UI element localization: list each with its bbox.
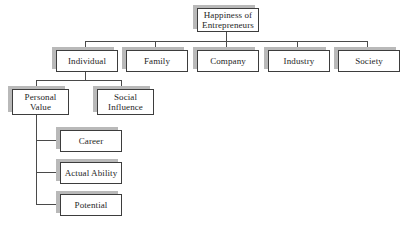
- root-node[interactable]: Happiness of Entrepreneurs: [197, 8, 259, 32]
- personal-value-node[interactable]: Personal Value: [12, 89, 69, 115]
- connector-individual-down: [85, 72, 86, 80]
- society-node-label: Society: [339, 56, 399, 66]
- career-node[interactable]: Career: [60, 130, 122, 152]
- actual-ability-node-label: Actual Ability: [61, 168, 121, 178]
- career-node-label: Career: [61, 136, 121, 146]
- company-node[interactable]: Company: [197, 50, 259, 72]
- industry-node-label: Industry: [269, 56, 329, 66]
- individual-node-label: Individual: [57, 56, 117, 66]
- social-influence-node-label: Social Influence: [98, 92, 153, 112]
- potential-node-label: Potential: [61, 200, 121, 210]
- actual-ability-node[interactable]: Actual Ability: [60, 162, 122, 184]
- connector-personal-value-spine: [36, 115, 37, 204]
- connector-level3-bus: [36, 80, 121, 81]
- industry-node[interactable]: Industry: [268, 50, 330, 72]
- individual-node[interactable]: Individual: [56, 50, 118, 72]
- connector-root-down: [226, 31, 227, 41]
- society-node[interactable]: Society: [338, 50, 400, 72]
- family-node-label: Family: [127, 56, 187, 66]
- company-node-label: Company: [198, 56, 258, 66]
- root-node-label: Happiness of Entrepreneurs: [198, 10, 258, 30]
- potential-node[interactable]: Potential: [60, 194, 122, 216]
- hierarchy-diagram: Happiness of Entrepreneurs Individual Fa…: [0, 0, 410, 231]
- family-node[interactable]: Family: [126, 50, 188, 72]
- personal-value-node-label: Personal Value: [13, 92, 68, 112]
- social-influence-node[interactable]: Social Influence: [97, 89, 154, 115]
